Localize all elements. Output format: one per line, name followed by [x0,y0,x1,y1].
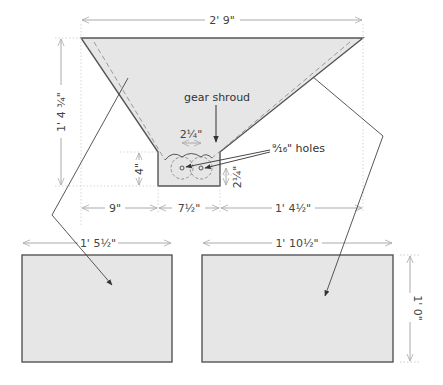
dim-hole-spacing: 2¼" [180,128,203,143]
dim-bottom-row: 9" 7½" 1' 4½" [82,202,362,215]
panel-left-width-label: 1' 5½" [80,237,116,250]
bottom-left-label: 9" [109,202,121,215]
gear-shroud-label: gear shroud [184,91,250,104]
diagram-canvas: 2' 9" 1' 4 ¾" 4" 2¼" 2¼" 9" 7½" 1' 4½" g… [0,0,443,385]
woodworking-diagram: 2' 9" 1' 4 ¾" 4" 2¼" 2¼" 9" 7½" 1' 4½" g… [0,0,443,385]
overall-width-label: 2' 9" [209,14,235,27]
dim-hole-height: 2¼" [226,166,244,189]
hole-spacing-label: 2¼" [180,128,203,141]
dim-collar-height: 4" [133,153,146,185]
overall-height-label: 1' 4 ¾" [55,92,68,132]
panel-right-width-label: 1' 10½" [275,237,318,250]
panel-left: 1' 5½" [22,237,172,362]
dim-overall-width: 2' 9" [82,14,362,27]
holes-label: ⁹⁄₁₆" holes [272,142,325,155]
bottom-mid-label: 7½" [178,202,201,215]
panel-right-height-label: 1' 0" [411,295,424,321]
hole-height-label: 2¼" [231,166,244,189]
collar-height-label: 4" [133,163,146,175]
dim-overall-height: 1' 4 ¾" [55,39,68,185]
panel-right: 1' 10½" 1' 0" [202,237,424,362]
bottom-right-label: 1' 4½" [275,202,311,215]
